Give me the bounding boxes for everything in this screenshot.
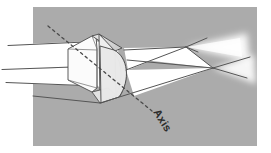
optics-ray-diagram-svg: Axis [0,0,271,153]
optics-figure: Axis [0,0,271,153]
